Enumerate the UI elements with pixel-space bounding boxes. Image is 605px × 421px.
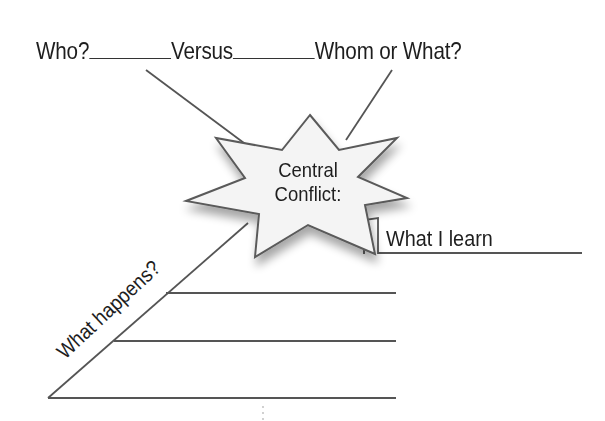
whom-label: Whom or What?	[315, 37, 462, 64]
who-label: Who?	[36, 37, 89, 64]
whom-blank[interactable]	[233, 36, 315, 59]
decorative-dot	[262, 418, 264, 420]
central-conflict-label: Central Conflict:	[260, 158, 357, 206]
decorative-dot	[262, 406, 264, 408]
versus-label: Versus	[171, 37, 233, 64]
happens-diagonal-line	[48, 223, 248, 398]
whom-connector-line	[346, 70, 392, 140]
who-connector-line	[146, 70, 248, 146]
central-conflict-line1: Central	[260, 158, 357, 182]
central-conflict-line2: Conflict:	[260, 182, 357, 206]
conflict-header-row: Who?VersusWhom or What?	[36, 36, 462, 65]
what-i-learn-label: What I learn	[386, 226, 493, 252]
decorative-dot	[262, 412, 264, 414]
who-blank[interactable]	[89, 36, 171, 59]
